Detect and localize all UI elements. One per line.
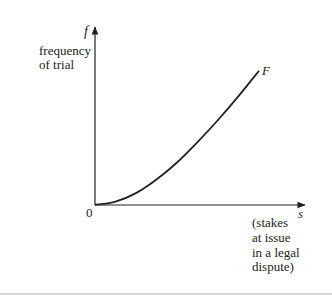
x-axis-description-line-4: dispute) <box>252 259 294 274</box>
series-line-F <box>95 71 259 205</box>
y-axis-description-line-1: frequency <box>39 43 91 58</box>
diagram: f frequency of trial 0 s (stakes at issu… <box>0 0 332 296</box>
y-axis-description-line-2: of trial <box>39 57 74 72</box>
x-axis-description-line-3: in a legal <box>252 245 300 260</box>
y-axis-label: f <box>84 24 90 39</box>
origin-label: 0 <box>86 205 93 220</box>
x-axis-label: s <box>298 206 303 221</box>
bottom-border <box>0 293 332 295</box>
x-axis-description-line-2: at issue <box>252 230 291 245</box>
series-label-F: F <box>261 63 271 78</box>
x-axis-description-line-1: (stakes <box>252 215 288 230</box>
